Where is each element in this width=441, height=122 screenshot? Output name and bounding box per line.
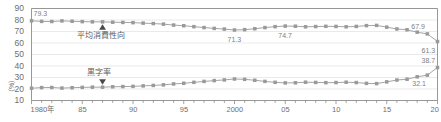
data-point-label: 71.3 xyxy=(228,36,242,43)
data-point-marker xyxy=(50,20,54,24)
data-point-marker xyxy=(121,21,125,25)
data-point-label: 74.7 xyxy=(278,32,292,39)
data-point-marker xyxy=(131,21,135,25)
data-point-marker xyxy=(405,28,409,32)
x-axis-tick-label: 85 xyxy=(78,106,86,114)
data-point-label: 38.7 xyxy=(422,57,436,64)
data-point-marker xyxy=(263,80,267,84)
data-point-marker xyxy=(131,85,135,89)
data-point-marker xyxy=(111,85,115,89)
data-point-marker xyxy=(212,79,216,83)
data-point-marker xyxy=(385,80,389,84)
data-point-marker xyxy=(344,25,348,29)
data-point-marker xyxy=(212,27,216,31)
x-axis-tick-label: 15 xyxy=(383,106,391,114)
data-point-marker xyxy=(385,25,389,29)
data-point-marker xyxy=(60,86,64,90)
data-point-marker xyxy=(40,20,44,24)
data-point-marker xyxy=(101,85,105,89)
data-point-marker xyxy=(365,82,369,86)
y-axis-tick-label: 10 xyxy=(2,96,24,105)
data-point-marker xyxy=(182,24,186,28)
data-point-marker xyxy=(101,20,105,24)
data-point-marker xyxy=(162,22,166,26)
x-axis-tick-label: 10 xyxy=(332,106,340,114)
data-point-marker xyxy=(243,78,247,82)
data-point-marker xyxy=(233,77,237,81)
y-axis-tick-label: 80 xyxy=(2,16,24,25)
data-point-marker xyxy=(202,80,206,84)
y-axis-tick-label: 90 xyxy=(2,4,24,13)
data-point-marker xyxy=(91,20,95,24)
data-point-marker xyxy=(284,24,288,28)
data-point-marker xyxy=(426,73,430,77)
y-axis-tick-label: 70 xyxy=(2,27,24,36)
chart-container: 908070605040302010 1980年8590952000051015… xyxy=(0,0,441,122)
data-point-marker xyxy=(70,20,74,24)
data-point-marker xyxy=(141,21,145,25)
data-point-marker xyxy=(365,24,369,28)
data-point-marker xyxy=(162,83,166,87)
data-point-marker xyxy=(152,84,156,88)
data-point-marker xyxy=(223,27,227,31)
data-point-marker xyxy=(314,25,318,29)
data-point-marker xyxy=(355,25,359,29)
data-point-marker xyxy=(436,66,440,70)
data-point-marker xyxy=(273,81,277,85)
data-point-marker xyxy=(355,81,359,85)
data-point-marker xyxy=(60,19,64,23)
data-point-marker xyxy=(375,24,379,28)
x-axis-tick-label: 20 xyxy=(431,106,439,114)
data-point-marker xyxy=(284,81,288,85)
x-axis-tick-label: 95 xyxy=(180,106,188,114)
annotation-surplus-rate: 黒字率 xyxy=(87,69,111,77)
data-point-marker xyxy=(30,19,34,23)
data-point-label: 67.9 xyxy=(411,23,425,30)
x-axis-tick-label: 90 xyxy=(129,106,137,114)
data-point-marker xyxy=(223,78,227,82)
x-axis-tick-label: 2000 xyxy=(227,106,244,114)
data-point-marker xyxy=(253,27,256,31)
data-point-label: 61.3 xyxy=(422,47,436,54)
data-point-marker xyxy=(263,26,267,30)
data-point-marker xyxy=(81,86,85,90)
data-point-marker xyxy=(375,82,379,86)
data-point-marker xyxy=(30,86,34,90)
data-point-marker xyxy=(334,81,338,85)
x-axis-tick-label: 05 xyxy=(281,106,289,114)
line-chart-plot xyxy=(0,0,441,122)
y-axis-tick-label: 60 xyxy=(2,39,24,48)
data-point-marker xyxy=(395,78,399,82)
data-point-marker xyxy=(91,85,95,89)
data-point-label: 32.1 xyxy=(412,80,426,87)
data-point-marker xyxy=(172,23,176,27)
y-axis-tick-label: 40 xyxy=(2,62,24,71)
data-point-marker xyxy=(192,25,196,29)
data-point-marker xyxy=(111,20,115,24)
down-triangle-icon xyxy=(99,79,106,84)
data-point-marker xyxy=(152,22,156,26)
data-point-marker xyxy=(243,28,247,32)
data-point-marker xyxy=(233,28,237,32)
data-point-marker xyxy=(141,84,145,88)
data-point-marker xyxy=(294,24,298,28)
data-point-marker xyxy=(202,26,206,30)
data-point-marker xyxy=(344,80,348,84)
x-axis-ticks xyxy=(32,101,438,105)
x-axis-tick-label: 1980年 xyxy=(31,106,55,114)
y-axis-unit-label: （%） xyxy=(8,75,15,95)
data-point-marker xyxy=(304,25,308,29)
data-point-marker xyxy=(182,82,186,86)
data-point-marker xyxy=(70,86,74,90)
data-point-marker xyxy=(273,25,277,29)
y-axis-tick-label: 50 xyxy=(2,50,24,59)
data-point-marker xyxy=(81,20,85,24)
data-point-marker xyxy=(436,40,440,44)
data-point-marker xyxy=(314,81,318,85)
data-point-marker xyxy=(324,81,328,85)
data-point-marker xyxy=(50,86,54,90)
data-point-marker xyxy=(395,27,399,31)
data-point-marker xyxy=(253,79,256,83)
data-point-marker xyxy=(405,77,409,81)
data-point-marker xyxy=(324,25,328,29)
